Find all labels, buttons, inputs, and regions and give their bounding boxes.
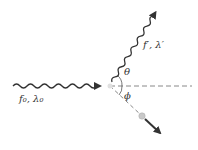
compton-scattering-diagram: f₀, λ₀ f′, λ′ θ ϕ	[0, 0, 198, 150]
theta-label: θ	[124, 66, 130, 77]
incident-photon-label: f₀, λ₀	[18, 93, 43, 104]
scattering-point	[108, 84, 113, 89]
scattered-photon-label: f′, λ′	[142, 39, 165, 50]
phi-label: ϕ	[124, 90, 131, 101]
electron-dot	[139, 113, 145, 119]
phi-angle-arc	[119, 86, 122, 95]
electron-recoil-arrow	[145, 119, 160, 133]
incident-photon-wave	[13, 84, 100, 88]
